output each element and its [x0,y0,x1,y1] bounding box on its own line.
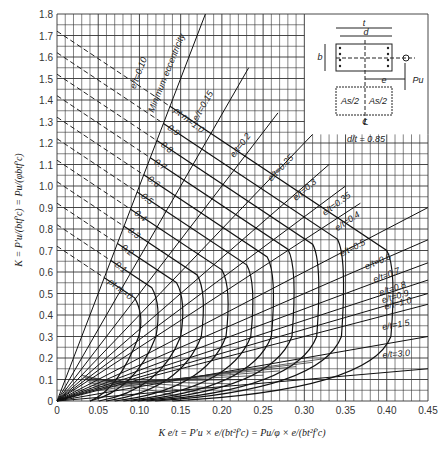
y-tick: 1.5 [39,74,53,85]
y-tick: 1.1 [39,160,53,171]
y-tick: 1.7 [39,31,53,42]
ptm-label: 0.4 [133,208,149,224]
y-tick: 1.2 [39,138,53,149]
x-tick: 0.35 [336,405,356,416]
x-tick: 0.20 [212,405,232,416]
inset-label: As/2 [368,96,387,106]
x-tick: 0 [54,405,60,416]
y-tick: 0.2 [39,353,53,364]
interaction-chart: 00.050.100.150.200.250.300.350.400.4500.… [0,0,447,449]
inset-label: Pu [412,75,423,85]
x-tick: 0.10 [130,405,150,416]
y-tick: 1.8 [39,9,53,20]
ecc-label: e/t=0.2 [228,131,253,159]
ratio-label: d/t = 0.85 [347,134,386,144]
ecc-label: e/t=0.25 [266,152,297,183]
ptm-label: 0.2 [120,242,136,258]
x-tick: 0.30 [295,405,315,416]
y-tick: 0.1 [39,375,53,386]
x-tick: 0.15 [171,405,191,416]
x-tick: 0.45 [418,405,438,416]
y-tick: 0.4 [39,310,53,321]
section-inset: tdbePuAs/2As/2℄d/t = 0.85 [317,18,423,144]
y-tick: 0.9 [39,203,53,214]
inset-label: e [381,75,386,85]
y-tick: 1.0 [39,181,53,192]
x-tick: 0.25 [253,405,273,416]
ptm-label: 0.5 [139,191,156,207]
ptm-label: 0.1 [113,259,129,275]
x-tick: 0.05 [88,405,108,416]
ptm-label: 0.7 [152,157,169,173]
y-tick: 1.6 [39,52,53,63]
y-tick: 0.6 [39,267,53,278]
ptm-label: 0.6 [146,174,162,190]
y-tick: 0.5 [39,289,53,300]
y-tick: 0 [47,396,53,407]
x-axis-caption: K e/t = P′u × e/(bt²f′c) = Pu/φ × e/(bt²… [158,427,327,439]
ptm-label: ρt m=0 [106,276,135,302]
y-tick: 0.7 [39,246,53,257]
ecc-label: e/t=1.5 [381,317,411,332]
y-axis-caption: K = P′u/(btf′c) = Pu/(φbtf′c) [13,153,25,268]
curve-labels: e/t=0.10e/t=0.15e/t=0.2e/t=0.25e/t=0.3e/… [106,32,413,360]
y-tick: 0.8 [39,224,53,235]
inset-label: b [317,52,322,62]
x-tick: 0.40 [377,405,397,416]
inset-label: As/2 [340,96,359,106]
y-tick: 0.3 [39,332,53,343]
ptm-label: 0.9 [165,122,181,138]
y-tick: 1.4 [39,95,53,106]
inset-label: ℄ [362,117,368,127]
y-tick: 1.3 [39,117,53,128]
